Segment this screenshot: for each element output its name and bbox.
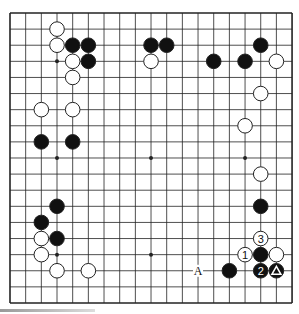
white-stone bbox=[65, 70, 80, 85]
white-stone bbox=[253, 86, 268, 101]
black-stone: 2 bbox=[253, 263, 268, 278]
white-stone bbox=[34, 231, 49, 246]
black-stone bbox=[253, 38, 268, 53]
labels-layer: A bbox=[193, 264, 203, 278]
move-number: 1 bbox=[242, 249, 248, 261]
move-number: 2 bbox=[258, 265, 264, 277]
white-stone bbox=[65, 102, 80, 117]
white-stone bbox=[269, 54, 284, 69]
go-board: 312 A bbox=[0, 0, 299, 314]
white-stone bbox=[50, 22, 65, 37]
black-stone bbox=[238, 54, 253, 69]
black-stone bbox=[50, 231, 65, 246]
black-stone bbox=[144, 38, 159, 53]
white-stone bbox=[50, 263, 65, 278]
white-stone bbox=[238, 118, 253, 133]
white-stone bbox=[34, 102, 49, 117]
star-point bbox=[55, 253, 59, 257]
black-stone bbox=[34, 215, 49, 230]
black-stone bbox=[159, 38, 174, 53]
white-stone bbox=[65, 54, 80, 69]
black-stone bbox=[253, 247, 268, 262]
star-point bbox=[55, 59, 59, 63]
black-stone bbox=[50, 199, 65, 214]
white-stone bbox=[50, 38, 65, 53]
star-point bbox=[149, 253, 153, 257]
point-label: A bbox=[194, 264, 203, 278]
black-stone bbox=[65, 38, 80, 53]
star-point bbox=[149, 156, 153, 160]
black-stone bbox=[253, 199, 268, 214]
white-stone bbox=[144, 54, 159, 69]
white-stone bbox=[81, 263, 96, 278]
stones-layer: 312 bbox=[34, 22, 284, 278]
black-stone bbox=[81, 54, 96, 69]
move-number: 3 bbox=[258, 233, 264, 245]
white-stone: 3 bbox=[253, 231, 268, 246]
white-stone bbox=[269, 247, 284, 262]
black-stone bbox=[81, 38, 96, 53]
black-stone bbox=[65, 135, 80, 150]
white-stone: 1 bbox=[238, 247, 253, 262]
black-stone bbox=[34, 135, 49, 150]
star-point bbox=[243, 156, 247, 160]
black-stone bbox=[269, 263, 284, 278]
black-stone bbox=[222, 263, 237, 278]
black-stone bbox=[206, 54, 221, 69]
white-stone bbox=[34, 247, 49, 262]
star-point bbox=[55, 156, 59, 160]
white-stone bbox=[253, 167, 268, 182]
scan-edge-artifact bbox=[0, 309, 95, 312]
